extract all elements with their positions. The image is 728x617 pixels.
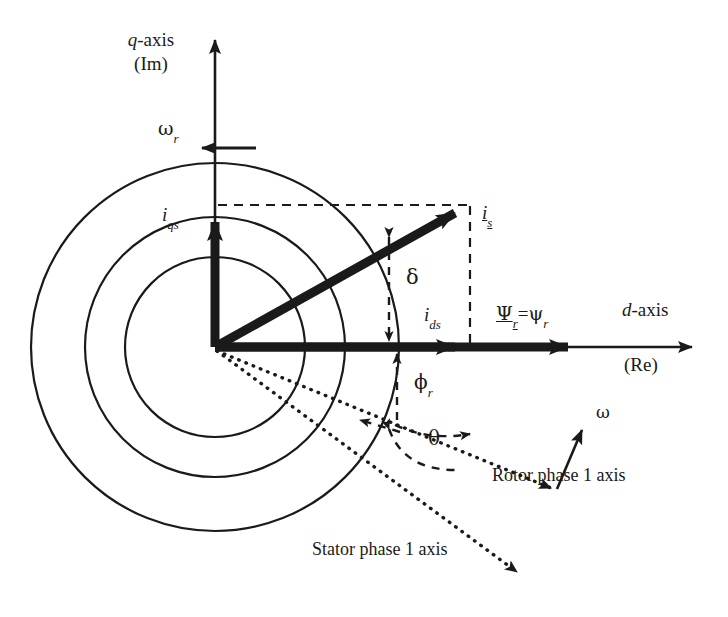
theta-symbol: θ [428,426,440,450]
is-subscript: s [487,215,492,230]
d-axis-sublabel: (Re) [624,355,720,376]
rotor-speed-symbol: ω [158,117,174,139]
q-axis-sublabel: (Im) [108,54,194,75]
phi-r-angle-label: ϕr [414,372,433,397]
rotor-flux-subscript-underlined: r [513,316,518,331]
rotor-speed-label: ωr [158,118,179,143]
phi-r-symbol: ϕ [414,370,428,394]
ids-label: ids [424,305,441,329]
delta-angle-label: δ [406,266,419,289]
d-axis-label-suffix: -axis [632,299,669,320]
d-axis-label: d-axis [622,300,718,321]
theta-angle-label: θ [428,428,440,450]
stator-current-vector [215,213,455,347]
ids-subscript: ds [429,317,441,332]
is-label: is [482,203,492,227]
rotor-flux-symbol-underlined: Ψ [496,302,513,324]
d-axis-label-symbol: d [622,299,632,320]
theta-angle-marker [360,420,470,470]
q-axis-label: q-axis [108,30,194,51]
rotor-flux-subscript-plain: r [543,316,548,331]
phi-r-subscript: r [428,385,433,400]
diagram-canvas [0,0,728,617]
rotor-phase-1-axis-label: Rotor phase 1 axis [492,466,625,485]
coordinate-axes-group [215,40,692,347]
q-axis-label-suffix: -axis [137,29,174,50]
vector-diagram-figure: q-axis (Im) d-axis (Re) ωr ω iqs is ids … [0,0,728,617]
rotor-flux-symbol-plain: ψ [528,302,543,324]
synchronous-speed-symbol: ω [596,402,610,422]
synchronous-speed-label: ω [596,402,610,423]
rotor-speed-subscript: r [174,131,179,146]
q-axis-label-symbol: q [128,29,138,50]
rotor-flux-equals: = [518,303,529,324]
stator-phase-1-axis-label: Stator phase 1 axis [312,540,447,559]
delta-symbol: δ [406,265,419,289]
iqs-label: iqs [162,205,179,229]
rotor-flux-label: Ψr=ψr [496,303,548,328]
iqs-subscript: qs [167,217,179,232]
